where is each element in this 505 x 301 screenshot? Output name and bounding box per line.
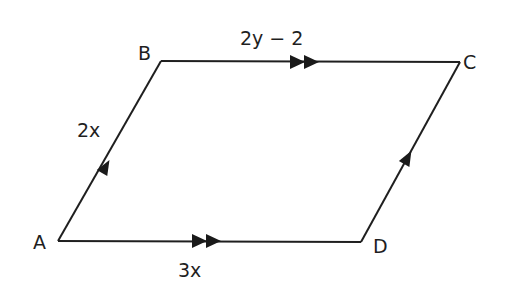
edge-label-ad: 3x: [178, 259, 201, 281]
single-arrow-icon-dc: [399, 148, 417, 167]
vertex-label-c: C: [463, 51, 476, 73]
vertex-label-d: D: [373, 235, 388, 257]
double-arrow-icon-ad: [192, 234, 221, 248]
vertex-label-a: A: [33, 231, 46, 253]
vertex-label-b: B: [138, 42, 151, 64]
parallelogram-diagram: A B C D 2x 2y − 2 3x: [0, 0, 505, 301]
double-arrow-icon-bc: [290, 55, 319, 69]
single-arrow-icon-ab: [97, 157, 115, 176]
edge-ab: [58, 61, 161, 241]
edge-label-bc: 2y − 2: [240, 27, 303, 49]
edge-label-ab: 2x: [77, 119, 100, 141]
